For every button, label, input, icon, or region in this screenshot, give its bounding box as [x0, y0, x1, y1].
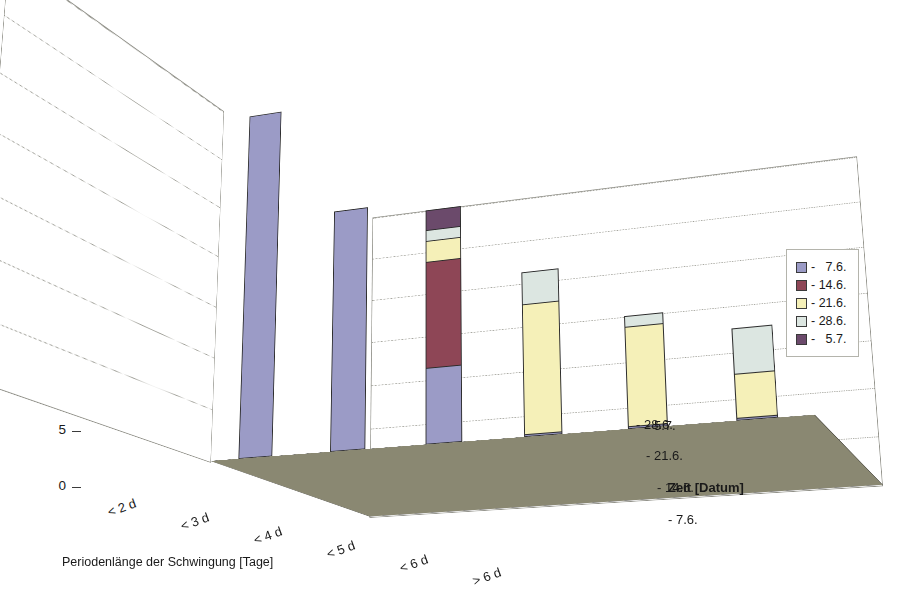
bar [330, 207, 368, 452]
y-tick-label: 0 [32, 478, 66, 493]
bar-face-side [390, 225, 391, 448]
z-tick-label: - 21.6. [646, 448, 683, 463]
x-axis-title: Periodenlänge der Schwingung [Tage] [62, 555, 273, 569]
bar-face-front [624, 323, 668, 429]
legend-swatch [796, 262, 807, 273]
bar-face-side [585, 265, 590, 432]
bar-face-front [522, 300, 563, 437]
bar-face-side [486, 255, 488, 440]
x-tick-label: > 6 d [470, 564, 503, 588]
bar-face-top [734, 371, 775, 375]
bar-face-side [586, 298, 590, 433]
bar-face-front [239, 112, 282, 459]
bar [624, 323, 668, 429]
bar-face-top [425, 226, 460, 230]
bar-face-side [804, 368, 807, 415]
bar [624, 323, 668, 429]
legend-item: - 5.7. [796, 330, 846, 348]
legend: - 7.6.- 14.6.- 21.6.- 28.6.- 5.7. [786, 249, 859, 357]
bar-face-side [297, 359, 299, 455]
legend-swatch [796, 316, 807, 327]
bar-face-top [624, 323, 663, 327]
x-tick-label: < 2 d [105, 495, 138, 519]
y-tick-mark [72, 487, 81, 488]
bar [734, 371, 778, 421]
plot-area-3d [150, 30, 810, 500]
bar-face-top [522, 268, 559, 272]
bar-face-top [522, 300, 559, 304]
bar-face-top [731, 324, 772, 328]
bar-face-side [486, 234, 488, 440]
bar-face-front [522, 300, 563, 437]
legend-item: - 28.6. [796, 312, 846, 330]
legend-label: - 5.7. [811, 332, 846, 346]
x-tick-label: < 4 d [251, 523, 284, 547]
bar-face-front [522, 268, 563, 437]
bar-face-top [425, 206, 460, 210]
bar [522, 300, 563, 437]
floor-plane [210, 415, 883, 517]
chart-canvas: 05101520253035 Anzahl der Gabelsprosse <… [0, 0, 910, 611]
bar-face-top [425, 258, 461, 262]
y-tick-label: 5 [32, 422, 66, 437]
legend-label: - 28.6. [811, 314, 846, 328]
bar-face-front [731, 324, 778, 421]
bar-face-side [691, 320, 696, 424]
bar-face-side [485, 202, 488, 439]
legend-swatch [796, 334, 807, 345]
gridline [373, 157, 856, 219]
bar-face-top [522, 300, 559, 304]
bar [522, 300, 563, 437]
bar-face-top [624, 323, 663, 327]
z-tick-label: - 5.7. [646, 418, 676, 433]
gridline [9, 0, 224, 113]
bar-face-side [390, 297, 391, 448]
bar-face-side [297, 108, 305, 454]
x-tick-label: < 3 d [178, 509, 211, 533]
gridline [0, 73, 220, 209]
bar-face-side [487, 362, 488, 440]
legend-label: - 7.6. [811, 260, 846, 274]
legend-label: - 21.6. [811, 296, 846, 310]
legend-label: - 14.6. [811, 278, 846, 292]
bar-face-side [586, 298, 590, 433]
bar [425, 365, 462, 445]
bar [624, 312, 668, 429]
legend-swatch [796, 280, 807, 291]
gridline [0, 192, 216, 308]
gridline [0, 132, 218, 258]
legend-item: - 7.6. [796, 258, 846, 276]
bar-face-front [624, 312, 668, 429]
bar-face-top [425, 237, 460, 241]
bar [731, 324, 778, 421]
gridline [0, 316, 212, 410]
gridline [0, 253, 214, 358]
y-tick-mark [72, 431, 81, 432]
legend-item: - 14.6. [796, 276, 846, 294]
bar-face-side [691, 309, 696, 424]
x-tick-label: < 5 d [324, 537, 357, 561]
legend-item: - 21.6. [796, 294, 846, 312]
bar-face-front [734, 371, 778, 421]
bar-face-front [624, 323, 668, 429]
bar [239, 112, 282, 459]
bar-face-front [425, 365, 462, 445]
bar [522, 268, 563, 437]
bar-face-top [624, 312, 663, 316]
x-tick-label: < 6 d [397, 551, 430, 575]
z-axis-title: Zeit [Datum] [668, 480, 744, 495]
legend-swatch [796, 298, 807, 309]
bar-face-side [390, 204, 392, 447]
left-wall [0, 0, 224, 463]
bar-face-side [691, 320, 696, 424]
bars-group [224, 21, 807, 111]
bar-face-side [486, 223, 488, 440]
z-tick-label: - 7.6. [668, 512, 698, 527]
bar-face-front [330, 207, 368, 452]
